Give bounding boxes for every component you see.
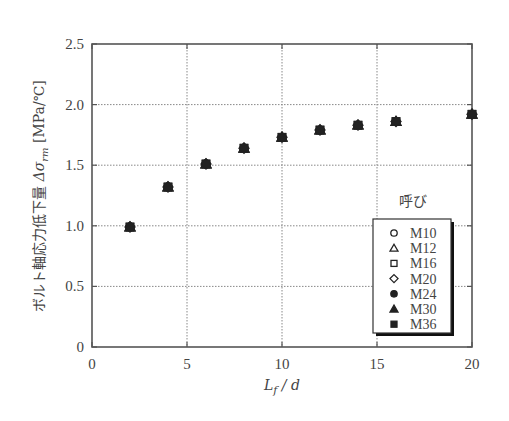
data-point-m36: [316, 126, 324, 134]
x-tick-label: 10: [275, 356, 290, 372]
x-axis-title: Lf / d: [263, 377, 300, 397]
legend-label: M12: [410, 241, 436, 256]
x-tick-label: 0: [88, 356, 96, 372]
data-point-m36: [392, 118, 400, 126]
legend-marker-m16: [391, 260, 397, 266]
legend: 呼び M10M12M16M20M24M30M36: [373, 194, 454, 336]
x-tick-label: 20: [465, 356, 480, 372]
data-points: [125, 109, 477, 232]
legend-label: M16: [410, 256, 436, 271]
legend-marker-m10: [391, 230, 397, 236]
x-tick-label: 5: [183, 356, 191, 372]
legend-label: M36: [410, 317, 436, 332]
y-tick-label: 0: [77, 339, 85, 355]
data-point-m36: [126, 223, 134, 231]
y-tick-label: 2.5: [65, 36, 84, 52]
y-tick-label: 1.5: [65, 157, 84, 173]
data-point-m36: [202, 160, 210, 168]
chart: 05101520 00.51.01.52.02.5 Lf / d ボルト軸応力低…: [0, 0, 509, 421]
data-point-m36: [354, 121, 362, 129]
data-point-m36: [468, 111, 476, 119]
legend-marker-m24: [391, 291, 397, 297]
data-point-m36: [240, 144, 248, 152]
x-tick-label: 15: [370, 356, 385, 372]
legend-label: M20: [410, 272, 436, 287]
legend-label: M10: [410, 226, 436, 241]
y-tick-label: 0.5: [65, 278, 84, 294]
legend-title: 呼び: [399, 194, 427, 209]
legend-label: M30: [410, 302, 436, 317]
y-tick-label: 2.0: [65, 97, 84, 113]
data-point-m36: [278, 134, 286, 142]
y-tick-label: 1.0: [65, 218, 84, 234]
y-axis-title: ボルト軸応力低下量 Δσrm [MPa/℃]: [31, 80, 50, 312]
legend-marker-m36: [391, 321, 397, 327]
data-point-m36: [164, 183, 172, 191]
legend-label: M24: [410, 287, 436, 302]
